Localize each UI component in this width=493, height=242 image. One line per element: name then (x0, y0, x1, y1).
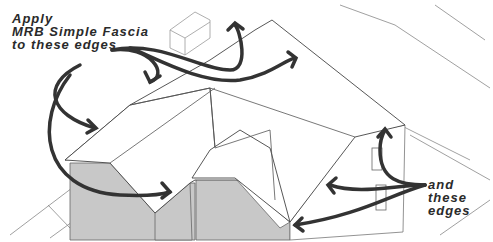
second-label-line-3: edges (428, 204, 471, 217)
main-label-line-3: to these edges (12, 38, 149, 51)
arrow-4 (55, 65, 95, 128)
secondary-annotation-label: and these edges (428, 178, 471, 217)
chimney (170, 12, 210, 55)
arrow-1 (112, 49, 158, 82)
main-annotation-label: Apply MRB Simple Fascia to these edges (12, 12, 149, 51)
roof-fascia-diagram: Apply MRB Simple Fascia to these edges a… (0, 0, 493, 242)
